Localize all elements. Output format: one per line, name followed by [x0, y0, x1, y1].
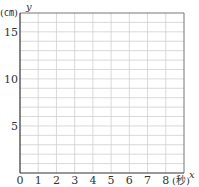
- x-tick-label: 4: [89, 174, 96, 187]
- grid: [20, 13, 184, 173]
- axes: [20, 13, 184, 173]
- x-tick-label: 2: [53, 174, 60, 187]
- y-tick-label: 10: [4, 73, 18, 86]
- y-axis-unit: (㎝): [0, 7, 18, 18]
- x-tick-label: 5: [108, 174, 115, 187]
- x-tick-label: 0: [17, 174, 24, 187]
- x-tick-label: 3: [71, 174, 78, 187]
- y-tick-label: 15: [4, 26, 18, 39]
- x-tick-label: 8: [162, 174, 169, 187]
- chart: 01234567851015 y (㎝) x (秒): [0, 0, 199, 187]
- x-tick-label: 6: [126, 174, 133, 187]
- y-axis-label: y: [25, 1, 32, 12]
- y-tick-label: 5: [11, 120, 18, 133]
- x-tick-label: 7: [144, 174, 151, 187]
- x-tick-label: 1: [35, 174, 42, 187]
- x-axis-unit: (秒): [172, 174, 190, 186]
- tick-labels: 01234567851015: [4, 26, 169, 187]
- x-axis-label: x: [189, 169, 195, 180]
